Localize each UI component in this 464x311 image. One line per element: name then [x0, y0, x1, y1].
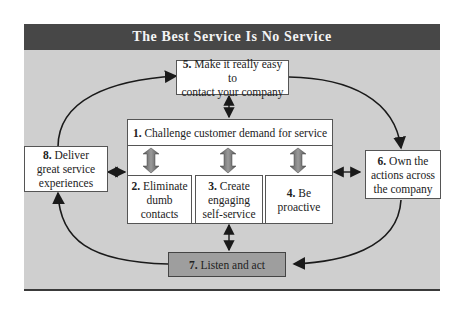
- node-2-eliminate-dumb-contacts: 2. Eliminate dumb contacts: [127, 175, 192, 224]
- node-2-line2: dumb: [146, 193, 172, 207]
- block-arrow-1-3: [220, 148, 236, 173]
- node-2-line3: contacts: [141, 207, 179, 221]
- node-2-line1: Eliminate: [143, 180, 188, 192]
- block-arrow-1-4: [290, 148, 306, 173]
- node-3-number: 3.: [208, 180, 217, 192]
- node-8-line1: Deliver: [55, 149, 89, 161]
- node-8-deliver-great-experiences: 8. Deliver great service experiences: [24, 146, 108, 192]
- node-8-line3: experiences: [39, 176, 93, 190]
- node-5-line2: contact your company: [181, 85, 283, 99]
- block-arrow-1-2: [143, 148, 159, 173]
- node-8-number: 8.: [43, 149, 52, 161]
- node-6-line1: Own the: [389, 155, 428, 167]
- node-8-line2: great service: [37, 162, 95, 176]
- node-2-number: 2.: [131, 180, 140, 192]
- node-5-number: 5.: [183, 58, 192, 70]
- node-4-be-proactive: 4. Be proactive: [265, 175, 333, 224]
- node-6-own-actions: 6. Own the actions across the company: [365, 150, 441, 199]
- node-5-line1: Make it really easy to: [194, 58, 282, 84]
- node-3-line1: Create: [220, 180, 250, 192]
- node-3-create-engaging-self-service: 3. Create engaging self-service: [195, 175, 263, 224]
- node-6-line3: the company: [373, 182, 432, 196]
- node-6-line2: actions across: [371, 168, 435, 182]
- node-6-number: 6.: [378, 155, 387, 167]
- node-4-line1: Be: [298, 187, 311, 199]
- node-3-line3: self-service: [203, 207, 256, 221]
- node-4-line2: proactive: [278, 200, 321, 214]
- node-7-text: Listen and act: [200, 258, 265, 272]
- node-4-number: 4.: [287, 187, 296, 199]
- node-3-line2: engaging: [208, 193, 250, 207]
- node-5-make-easy-to-contact: 5. Make it really easy to contact your c…: [176, 60, 289, 95]
- node-7-listen-and-act: 7. Listen and act: [168, 252, 286, 277]
- node-7-number: 7.: [189, 258, 198, 272]
